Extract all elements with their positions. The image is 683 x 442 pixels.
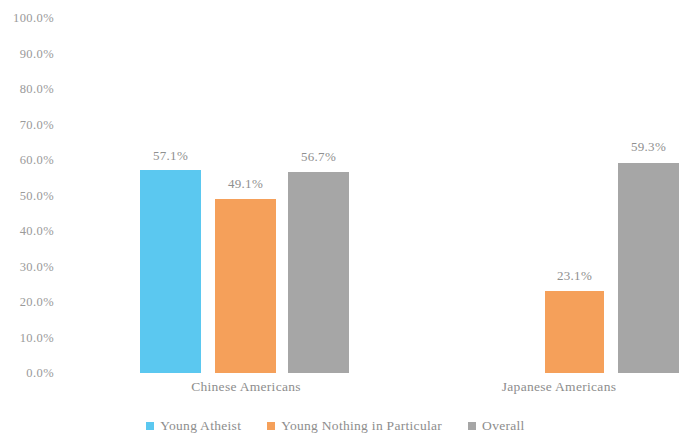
legend-item-young-nothing-in-particular[interactable]: Young Nothing in Particular <box>267 419 442 433</box>
plot-area: 57.1% 49.1% 56.7% 23.1% 59.3% <box>62 18 671 373</box>
y-axis-tick-label: 70.0% <box>0 119 54 132</box>
bar-label-japanese-americans-young-nothing-in-particular: 23.1% <box>535 269 614 282</box>
y-axis-tick-label: 100.0% <box>0 12 54 25</box>
legend-item-overall[interactable]: Overall <box>468 419 525 433</box>
y-axis-tick-label: 60.0% <box>0 154 54 167</box>
y-axis-tick-label: 40.0% <box>0 225 54 238</box>
bar-chinese-americans-young-nothing-in-particular[interactable] <box>215 199 276 373</box>
bar-label-chinese-americans-overall: 56.7% <box>278 150 359 163</box>
legend-swatch-icon-overall <box>468 422 476 430</box>
y-axis-tick-label: 0.0% <box>0 367 54 380</box>
x-axis-category-label-japanese-americans: Japanese Americans <box>482 378 636 396</box>
y-axis: 100.0% 90.0% 80.0% 70.0% 60.0% 50.0% 40.… <box>0 0 62 395</box>
legend-swatch-icon-young-atheist <box>146 422 154 430</box>
legend-label-overall: Overall <box>482 419 525 433</box>
bar-chinese-americans-overall[interactable] <box>288 172 349 373</box>
bar-japanese-americans-overall[interactable] <box>618 163 679 374</box>
legend: Young Atheist Young Nothing in Particula… <box>0 414 671 438</box>
legend-item-young-atheist[interactable]: Young Atheist <box>146 419 241 433</box>
y-axis-tick-label: 30.0% <box>0 261 54 274</box>
y-axis-tick-label: 10.0% <box>0 332 54 345</box>
bar-label-japanese-americans-overall: 59.3% <box>608 140 683 153</box>
bar-label-chinese-americans-young-atheist: 57.1% <box>130 149 211 162</box>
legend-swatch-icon-young-nothing-in-particular <box>267 422 275 430</box>
x-axis: Chinese Americans Japanese Americans <box>62 378 671 402</box>
legend-label-young-atheist: Young Atheist <box>160 419 241 433</box>
bar-chinese-americans-young-atheist[interactable] <box>140 170 201 373</box>
bar-label-chinese-americans-young-nothing-in-particular: 49.1% <box>205 177 286 190</box>
legend-label-young-nothing-in-particular: Young Nothing in Particular <box>281 419 442 433</box>
x-axis-category-label-chinese-americans: Chinese Americans <box>174 378 318 396</box>
bar-japanese-americans-young-nothing-in-particular[interactable] <box>545 291 604 373</box>
y-axis-tick-label: 50.0% <box>0 190 54 203</box>
y-axis-tick-label: 90.0% <box>0 48 54 61</box>
y-axis-tick-label: 20.0% <box>0 296 54 309</box>
y-axis-tick-label: 80.0% <box>0 83 54 96</box>
